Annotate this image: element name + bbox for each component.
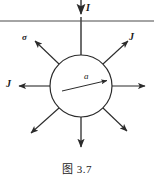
figure-drawing xyxy=(0,0,154,181)
current-density-arrow-down-left xyxy=(31,108,59,133)
current-density-arrow-down-right xyxy=(103,108,127,131)
radius-arrow-a xyxy=(62,81,107,92)
label-current-I: I xyxy=(86,3,90,13)
current-density-arrow-up-left xyxy=(35,41,59,64)
figure-container: I σ J J a 图 3.7 xyxy=(0,0,154,181)
label-current-density-left: J xyxy=(6,79,11,89)
current-density-arrow-up-right xyxy=(103,41,128,64)
figure-caption: 图 3.7 xyxy=(0,160,154,176)
label-radius-a: a xyxy=(84,72,89,81)
label-conductivity-sigma: σ xyxy=(22,33,27,42)
sphere-electrode xyxy=(50,55,112,117)
label-current-density-upper-right: J xyxy=(129,32,134,42)
